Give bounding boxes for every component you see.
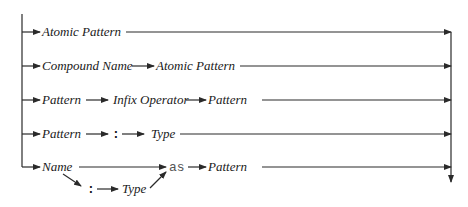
- syntax-diagram: Atomic Pattern Compound Name Atomic Patt…: [0, 0, 468, 207]
- row3-pattern-2: Pattern: [207, 92, 247, 107]
- row-1: Atomic Pattern: [22, 24, 451, 39]
- row-5: Name as Pattern : Type: [22, 159, 451, 197]
- row-4: Pattern : Type: [22, 126, 451, 142]
- row5-branch-colon: :: [87, 182, 95, 197]
- row5-name: Name: [41, 159, 73, 174]
- row2-compound-name: Compound Name: [42, 58, 133, 73]
- row-2: Compound Name Atomic Pattern: [22, 58, 451, 73]
- row4-pattern: Pattern: [41, 126, 81, 141]
- row3-infix-operator: Infix Operator: [112, 92, 189, 107]
- row3-pattern: Pattern: [41, 92, 81, 107]
- row5-pattern: Pattern: [207, 159, 247, 174]
- row5-branch-type: Type: [122, 181, 147, 196]
- branch-up-arrow: [150, 172, 166, 188]
- row2-atomic-pattern: Atomic Pattern: [155, 58, 235, 73]
- row4-colon: :: [112, 127, 120, 142]
- branch-down-arrow: [63, 174, 81, 186]
- row-3: Pattern Infix Operator Pattern: [22, 92, 451, 107]
- row4-type: Type: [151, 126, 176, 141]
- row1-atomic-pattern: Atomic Pattern: [41, 24, 121, 39]
- row5-as-keyword: as: [169, 160, 185, 175]
